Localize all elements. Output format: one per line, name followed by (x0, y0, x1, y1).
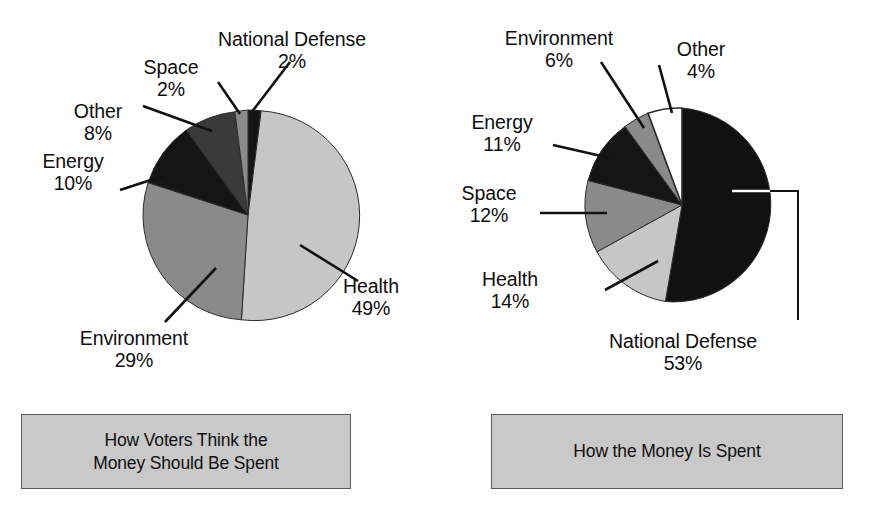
label-space: Space 2% (132, 56, 210, 100)
label-space: Space 12% (449, 182, 529, 226)
leader-line-environment (601, 62, 644, 128)
label-energy: Energy 10% (30, 150, 116, 194)
label-health-pct: 49% (333, 297, 409, 319)
leader-line-space (218, 82, 240, 114)
label-other: Other 4% (663, 38, 739, 82)
label-space-pct: 12% (449, 204, 529, 226)
label-other-name: Other (62, 100, 134, 122)
label-space-name: Space (132, 56, 210, 78)
label-national-defense-name: National Defense (583, 330, 783, 352)
label-health-name: Health (333, 275, 409, 297)
label-health-pct: 14% (467, 290, 553, 312)
label-environment-pct: 29% (59, 349, 209, 371)
figure-root: National Defense 2% Space 2% Other 8% En… (0, 0, 870, 532)
label-health: Health 14% (467, 268, 553, 312)
caption-line-1: How Voters Think the (93, 429, 279, 452)
label-environment-name: Environment (483, 27, 635, 49)
caption-line-2: Money Should Be Spent (93, 452, 279, 475)
leader-line-national-defense-outer (770, 191, 798, 320)
label-environment-pct: 6% (483, 49, 635, 71)
label-space-name: Space (449, 182, 529, 204)
label-national-defense: National Defense 2% (218, 28, 366, 72)
label-national-defense-pct: 53% (583, 352, 783, 374)
label-national-defense: National Defense 53% (583, 330, 783, 374)
caption-box-voters-think: How Voters Think the Money Should Be Spe… (21, 414, 351, 489)
label-energy-pct: 11% (459, 133, 545, 155)
caption-box-money-is-spent: How the Money Is Spent (491, 414, 843, 489)
caption-text-money-is-spent: How the Money Is Spent (573, 440, 760, 463)
label-health-name: Health (467, 268, 553, 290)
label-national-defense-name: National Defense (218, 28, 366, 50)
pie-chart-voters-think: National Defense 2% Space 2% Other 8% En… (0, 0, 435, 532)
caption-line-1: How the Money Is Spent (573, 440, 760, 463)
label-health: Health 49% (333, 275, 409, 319)
pie-chart-money-is-spent: Environment 6% Other 4% Energy 11% Space… (435, 0, 870, 532)
label-energy-name: Energy (459, 111, 545, 133)
label-other: Other 8% (62, 100, 134, 144)
leader-line-other (143, 106, 212, 131)
label-other-pct: 8% (62, 122, 134, 144)
caption-text-voters-think: How Voters Think the Money Should Be Spe… (93, 429, 279, 475)
label-other-pct: 4% (663, 60, 739, 82)
label-space-pct: 2% (132, 78, 210, 100)
label-energy: Energy 11% (459, 111, 545, 155)
label-environment: Environment 29% (59, 327, 209, 371)
label-energy-name: Energy (30, 150, 116, 172)
label-environment: Environment 6% (483, 27, 635, 71)
label-energy-pct: 10% (30, 172, 116, 194)
label-environment-name: Environment (59, 327, 209, 349)
label-other-name: Other (663, 38, 739, 60)
label-national-defense-pct: 2% (218, 50, 366, 72)
